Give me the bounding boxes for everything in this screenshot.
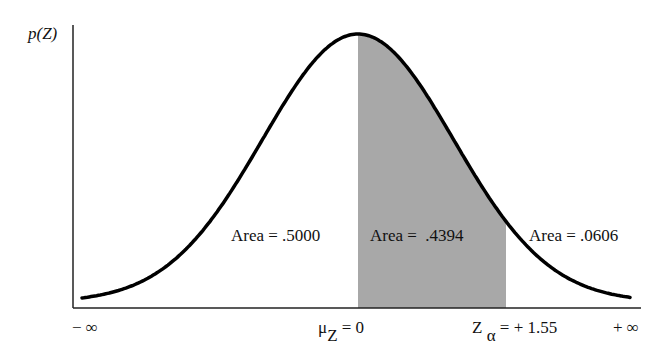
z-symbol: Z (472, 318, 482, 337)
z-space (482, 318, 486, 337)
normal-curve-plot (0, 0, 672, 362)
normal-curve (82, 34, 630, 298)
y-axis-label: p(Z) (28, 24, 57, 44)
area-middle-text: Area = .4394 (370, 226, 464, 245)
z-subscript: α (487, 326, 496, 345)
shaded-area-region (358, 34, 506, 308)
z-alpha-label: Z α = + 1.55 (472, 318, 557, 338)
mu-value: = 0 (338, 318, 365, 337)
mu-symbol: μ (318, 318, 327, 337)
pos-infinity-label: + ∞ (613, 318, 639, 338)
area-right-label: Area = .0606 (529, 226, 618, 246)
area-middle-label: Area = .4394 (370, 226, 464, 246)
neg-infinity-label: − ∞ (72, 318, 98, 338)
mu-subscript: Z (327, 326, 337, 345)
z-value: = + 1.55 (496, 318, 558, 337)
area-left-label: Area = .5000 (231, 226, 320, 246)
mean-label: μZ = 0 (318, 318, 364, 338)
